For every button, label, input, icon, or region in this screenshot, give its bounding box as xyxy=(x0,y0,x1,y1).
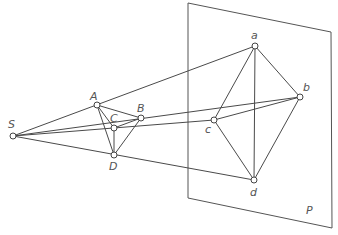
point-a xyxy=(252,43,258,49)
edge-S-a xyxy=(13,46,255,136)
point-b xyxy=(297,94,303,100)
label-c: c xyxy=(205,123,211,136)
label-a: a xyxy=(251,29,258,42)
edge-b-d xyxy=(254,97,300,180)
plane-label: P xyxy=(306,204,313,217)
point-d xyxy=(251,177,257,183)
edge-a-d xyxy=(254,46,255,180)
label-A: A xyxy=(89,90,98,103)
edge-c-d xyxy=(214,120,254,180)
projection-edges xyxy=(13,46,300,180)
edge-A-B xyxy=(97,105,141,118)
edge-S-d xyxy=(13,136,254,180)
edge-a-b xyxy=(255,46,300,97)
label-C: C xyxy=(110,112,118,125)
edge-B-D xyxy=(114,118,141,155)
point-D xyxy=(111,152,117,158)
label-b: b xyxy=(303,81,310,94)
point-C xyxy=(111,125,117,131)
label-d: d xyxy=(250,186,258,199)
edge-S-b xyxy=(13,97,300,136)
projection-diagram: PSABCDabcd xyxy=(0,0,338,235)
label-S: S xyxy=(8,118,15,131)
point-B xyxy=(138,115,144,121)
edge-a-c xyxy=(214,46,255,120)
projection-plane xyxy=(188,3,332,228)
edge-b-c xyxy=(214,97,300,120)
plane-outline xyxy=(188,3,332,228)
point-S xyxy=(10,133,16,139)
point-c xyxy=(211,117,217,123)
label-D: D xyxy=(109,160,117,173)
label-B: B xyxy=(137,102,145,115)
point-labels: PSABCDabcd xyxy=(8,29,313,217)
